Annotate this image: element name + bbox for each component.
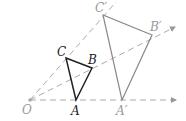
label-C-prime: C′ <box>95 1 107 15</box>
ray-OB <box>30 27 175 100</box>
homothety-diagram: O A B C A′ B′ C′ <box>0 0 186 121</box>
label-A: A <box>70 104 80 118</box>
triangle-image <box>103 15 152 100</box>
label-A-prime: A′ <box>115 104 128 118</box>
label-B-prime: B′ <box>149 20 162 34</box>
label-B: B <box>87 53 97 67</box>
center-point <box>28 98 32 102</box>
label-O: O <box>22 103 32 117</box>
label-C: C <box>57 45 66 59</box>
